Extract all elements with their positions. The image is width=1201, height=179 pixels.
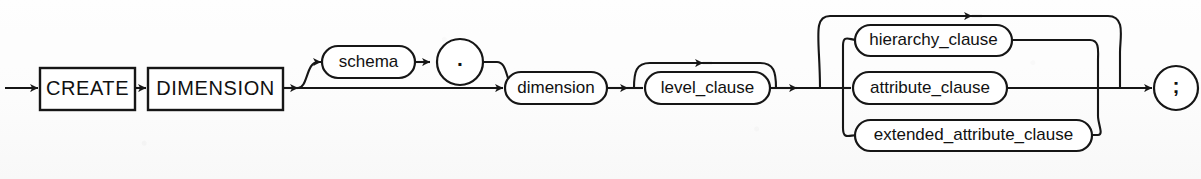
- node-dimension[interactable]: dimension: [505, 72, 607, 104]
- node-dimension-label: dimension: [517, 78, 595, 97]
- node-attribute-clause-label: attribute_clause: [870, 78, 990, 97]
- node-extended-attribute-clause-label: extended_attribute_clause: [874, 125, 1073, 144]
- node-dimension-keyword-label: DIMENSION: [156, 77, 275, 99]
- node-hierarchy-clause-label: hierarchy_clause: [869, 30, 998, 49]
- node-create[interactable]: CREATE: [40, 68, 135, 110]
- node-create-label: CREATE: [46, 77, 129, 99]
- node-dot[interactable]: .: [437, 39, 483, 85]
- node-dot-label: .: [457, 47, 463, 70]
- node-level-clause-label: level_clause: [661, 78, 755, 97]
- node-semicolon-label: ;: [1173, 74, 1180, 97]
- node-attribute-clause[interactable]: attribute_clause: [853, 72, 1007, 104]
- node-schema-label: schema: [339, 52, 399, 71]
- node-dimension-keyword[interactable]: DIMENSION: [148, 68, 283, 110]
- node-extended-attribute-clause[interactable]: extended_attribute_clause: [855, 120, 1092, 151]
- node-hierarchy-clause[interactable]: hierarchy_clause: [855, 25, 1012, 56]
- node-level-clause[interactable]: level_clause: [645, 72, 770, 104]
- railroad-diagram-canvas: CREATE DIMENSION schema . dimension leve…: [0, 0, 1201, 179]
- syntax-diagram: CREATE DIMENSION schema . dimension leve…: [0, 0, 1201, 179]
- node-schema[interactable]: schema: [322, 46, 415, 78]
- node-semicolon[interactable]: ;: [1154, 66, 1198, 110]
